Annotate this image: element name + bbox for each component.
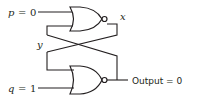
node-x-label: x [120, 11, 126, 22]
input-q-label: q = 1 [8, 83, 36, 94]
top-nor-gate [70, 7, 102, 31]
q-var: q [8, 83, 14, 94]
node-y-label: y [36, 39, 43, 50]
wire-x-to-bottom [47, 52, 74, 70]
bottom-nor-gate [70, 66, 102, 94]
wire-y-to-top [47, 26, 73, 35]
output-label: Output = 0 [132, 76, 183, 86]
top-nor-bubble [102, 17, 107, 22]
nor-latch-diagram: p = 0 x y q = 1 Output = 0 [0, 0, 200, 99]
q-eq: = [18, 83, 26, 94]
p-var: p [8, 7, 15, 18]
q-value: 1 [30, 83, 36, 94]
p-value: 0 [30, 7, 36, 18]
input-p-label: p = 0 [8, 7, 36, 18]
p-eq: = [18, 7, 26, 18]
bottom-nor-bubble [102, 78, 107, 83]
